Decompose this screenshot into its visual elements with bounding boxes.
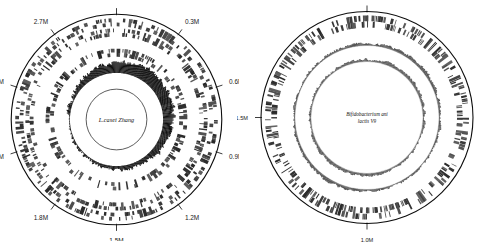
organism-name-line: Bifidobacterium ani <box>346 111 388 117</box>
organism-name-line: L.casei Zhang <box>98 116 135 123</box>
axis-tick-label: 1.5M <box>109 237 123 241</box>
panel-left: 00.3M0.6M0.9M1.2M1.5M1.8M2.1M2.4M2.7ML.c… <box>0 0 239 241</box>
axis-tick-mark <box>51 29 55 35</box>
axis-tick-label: 1.2M <box>185 214 199 221</box>
center-organism-label: Bifidobacterium anilactis V9 <box>346 111 388 124</box>
axis-tick-label: 2.1M <box>0 153 4 160</box>
center-organism-label: L.casei Zhang <box>98 116 135 123</box>
axis-tick-label: 1.0M <box>361 237 374 243</box>
axis-tick-mark <box>51 204 55 210</box>
axis-tick-label: 0 <box>115 0 119 1</box>
axis-tick-label: 1.8M <box>34 214 48 221</box>
axis-tick-label: 2.7M <box>34 18 48 25</box>
axis-tick-mark <box>178 204 182 210</box>
axis-tick-label: 1.5M <box>237 115 248 121</box>
panel-right: 01.0M1.5MBifidobacterium anilactis V9 <box>237 0 478 244</box>
axis-tick-label: 0.3M <box>185 18 199 25</box>
organism-name-line: lactis V9 <box>358 118 377 124</box>
axis-tick-mark <box>178 29 182 35</box>
axis-tick-label: 2.4M <box>0 78 4 85</box>
